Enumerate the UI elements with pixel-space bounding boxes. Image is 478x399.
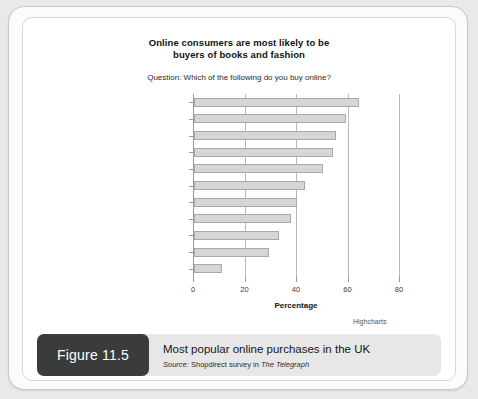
bar[interactable] [194,248,269,257]
x-tick-mark [245,277,246,282]
plot-area: 020406080BooksClothes and accessoriesMus… [193,94,399,277]
x-gridline [399,94,400,277]
x-tick-label: 60 [343,285,351,294]
y-tick-mark [189,252,193,253]
caption-title: Most popular online purchases in the UK [163,343,370,355]
x-tick-label: 0 [191,285,195,294]
caption-source: Source: Shopdirect survey in The Telegra… [163,360,309,369]
bar[interactable] [194,131,336,140]
bar[interactable] [194,198,297,207]
bar[interactable] [194,231,279,240]
x-tick-mark [348,277,349,282]
y-tick-mark [189,169,193,170]
y-tick-mark [189,235,193,236]
bar[interactable] [194,98,359,107]
chart-title-line-1: Online consumers are most likely to be [23,37,455,49]
x-tick-mark [296,277,297,282]
y-tick-mark [189,119,193,120]
x-tick-mark [399,277,400,282]
caption-source-publication: The Telegraph [261,360,309,369]
screenshot-root: Online consumers are most likely to be b… [0,0,478,399]
x-axis-title: Percentage [193,301,399,310]
figure-panel-inner: Online consumers are most likely to be b… [22,17,456,381]
bar[interactable] [194,114,346,123]
bar-chart: Online consumers are most likely to be b… [23,18,455,314]
y-tick-mark [189,186,193,187]
y-tick-mark [189,102,193,103]
bar[interactable] [194,148,333,157]
figure-panel-outer: Online consumers are most likely to be b… [8,6,468,390]
y-tick-mark [189,136,193,137]
bar[interactable] [194,214,291,223]
highcharts-credit[interactable]: Highcharts [353,318,386,325]
x-tick-label: 80 [395,285,403,294]
x-tick-mark [193,277,194,282]
y-tick-mark [189,202,193,203]
y-tick-mark [189,219,193,220]
bar[interactable] [194,264,222,273]
x-tick-label: 20 [240,285,248,294]
bar[interactable] [194,181,305,190]
x-gridline [348,94,349,277]
figure-caption: Figure 11.5 Most popular online purchase… [23,334,455,380]
chart-title: Online consumers are most likely to be b… [23,37,455,61]
y-tick-mark [189,152,193,153]
caption-source-label: Source: [163,360,189,369]
figure-number-tag: Figure 11.5 [37,334,149,376]
bar[interactable] [194,164,323,173]
caption-source-body: Shopdirect survey in [191,360,259,369]
x-tick-label: 40 [292,285,300,294]
chart-subtitle: Question: Which of the following do you … [23,73,455,82]
y-tick-mark [189,269,193,270]
chart-title-line-2: buyers of books and fashion [23,49,455,61]
